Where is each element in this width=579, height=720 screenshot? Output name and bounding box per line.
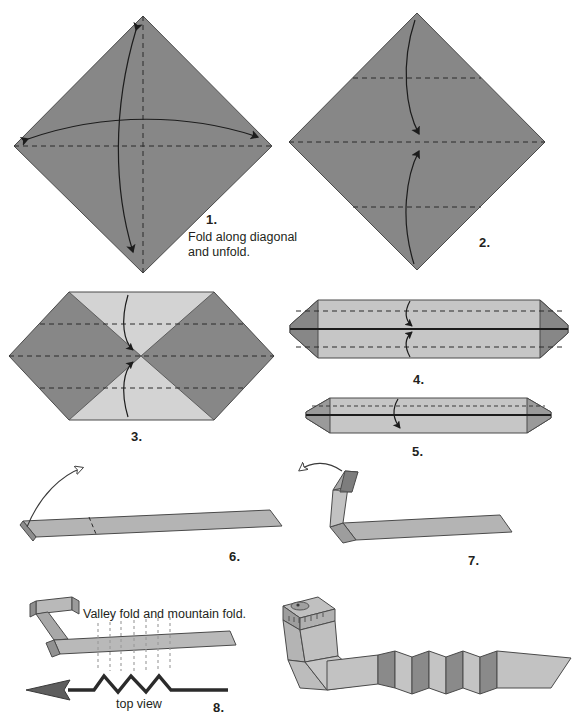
- step-6-figure: [20, 468, 282, 541]
- step-1-number: 1.: [206, 212, 217, 227]
- step-1-caption-line2: and unfold.: [188, 245, 348, 260]
- step-4-number: 4.: [413, 372, 424, 387]
- step6-lift-arrow: [27, 468, 82, 527]
- origami-instruction-sheet: 1. Fold along diagonal and unfold. 2. 3.…: [0, 0, 579, 720]
- step-2-number: 2.: [479, 235, 490, 250]
- snake-eye: [291, 602, 309, 610]
- snake-pleat-1: [378, 651, 395, 688]
- step-5-number: 5.: [412, 444, 423, 459]
- step-7-figure: [300, 463, 512, 543]
- snake-pleat-3: [412, 651, 429, 694]
- step7-neck-front: [330, 487, 348, 527]
- step8-head-top: [36, 597, 72, 614]
- step-3-figure: [9, 292, 274, 420]
- snake-pupil: [296, 603, 299, 606]
- step-8-instruction: Valley fold and mountain fold.: [83, 607, 246, 622]
- step-1-caption-line1: Fold along diagonal: [188, 230, 348, 245]
- snake-pleat-6: [463, 651, 480, 694]
- step-5-figure: [306, 398, 551, 433]
- step-1-caption: Fold along diagonal and unfold.: [188, 230, 348, 260]
- step8-topview-zigzag: [68, 676, 228, 692]
- step-4-figure: [290, 300, 568, 358]
- step7-fold-back-arrow: [300, 463, 342, 471]
- step6-paper-top: [23, 510, 282, 537]
- step-3-number: 3.: [131, 429, 142, 444]
- step7-body: [343, 515, 512, 540]
- snake-pleat-7: [480, 651, 497, 694]
- step8-head-right: [72, 597, 79, 614]
- snake-pleat-5: [446, 651, 463, 694]
- step8-head-side: [30, 601, 36, 617]
- finished-snake-figure: [283, 597, 571, 694]
- snake-body-straight: [327, 655, 378, 690]
- step-6-number: 6.: [229, 549, 240, 564]
- step-7-number: 7.: [468, 553, 479, 568]
- step-8-number: 8.: [213, 700, 224, 715]
- step8-neck-diag: [36, 612, 68, 640]
- step8-topview-arrowhead: [26, 680, 70, 700]
- snake-pleat-4: [429, 651, 446, 694]
- step-8-topview-label: top view: [116, 697, 162, 711]
- snake-tail: [497, 651, 571, 688]
- step8-body-strip: [54, 631, 236, 654]
- snake-pleat-2: [395, 651, 412, 694]
